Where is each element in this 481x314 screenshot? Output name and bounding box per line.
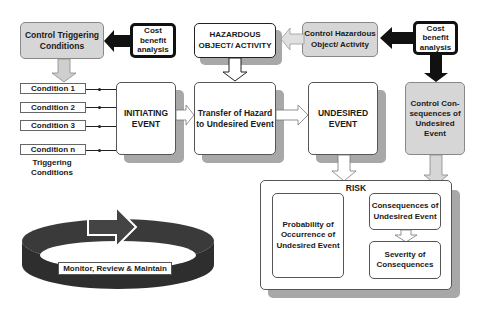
hazardous-object-label: HAZARDOUS OBJECT/ ACTIVITY [195,30,275,51]
down-arrow-icon [222,58,248,82]
connector-dot [98,125,101,128]
control-consequences-label: Control Con-sequences of Undesired Event [406,99,464,139]
monitor-review-maintain-label: Monitor, Review & Maintain [58,262,172,275]
connector [86,107,116,108]
down-arrow-icon [50,59,80,83]
transfer-label: Transfer of Hazard to Undesired Event [195,108,275,129]
risk-label: RISK [346,183,366,194]
monitor-label: Monitor, Review & Maintain [63,264,167,273]
control-consequences-box: Control Con-sequences of Undesired Event [405,82,465,155]
undesired-event-box: UNDESIRED EVENT [308,82,378,155]
connector-dot [98,88,101,91]
transfer-of-hazard-box: Transfer of Hazard to Undesired Event [194,82,276,155]
severity-box: Severity of Consequences [369,241,441,279]
hazardous-object-box: HAZARDOUS OBJECT/ ACTIVITY [194,23,276,58]
condition-label: Condition n [31,145,75,154]
cycle-ring-icon [18,205,218,297]
right-arrow-icon [176,105,194,125]
condition-3: Condition 3 [20,120,86,131]
undesired-event-label: UNDESIRED EVENT [309,108,377,129]
probability-label: Probability of Occurrence of Undesired E… [273,220,343,252]
consequences-box: Consequences of Undesired Event [369,193,441,230]
control-triggering-conditions-box: Control Triggering Conditions [20,22,104,59]
cost-benefit-right-label: Cost benefit analysis [416,24,455,53]
triggering-conditions-caption: Triggering Conditions [22,158,82,178]
connector-dot [98,149,101,152]
condition-n: Condition n [20,144,86,155]
control-hazardous-box: Control Hazardous Object/ Activity [302,22,378,57]
down-arrow-icon [423,55,449,83]
connector [86,150,116,151]
down-arrow-icon [332,155,356,181]
severity-label: Severity of Consequences [370,250,440,271]
connector [86,126,116,127]
initiating-event-box: INITIATING EVENT [116,82,176,155]
left-arrow-icon [104,30,132,52]
left-arrow-icon [380,27,414,49]
left-arrow-icon [280,26,304,52]
initiating-event-label: INITIATING EVENT [117,108,175,129]
condition-1: Condition 1 [20,83,86,94]
control-triggering-label: Control Triggering Conditions [21,30,103,51]
connector-dot [98,106,101,109]
cost-benefit-analysis-right: Cost benefit analysis [413,21,458,55]
condition-label: Condition 1 [31,84,75,93]
condition-label: Condition 3 [31,121,75,130]
consequences-label: Consequences of Undesired Event [370,201,440,222]
cost-benefit-left-label: Cost benefit analysis [133,26,173,55]
cost-benefit-analysis-left: Cost benefit analysis [130,23,176,58]
condition-2: Condition 2 [20,102,86,113]
control-hazardous-label: Control Hazardous Object/ Activity [303,29,377,50]
connector [86,89,116,90]
right-arrow-icon [276,105,308,125]
probability-box: Probability of Occurrence of Undesired E… [272,193,344,278]
condition-label: Condition 2 [31,103,75,112]
